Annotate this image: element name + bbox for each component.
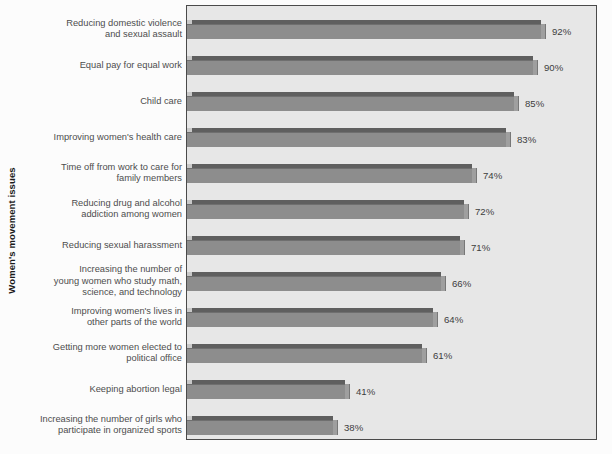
bar-front-face: [187, 420, 333, 435]
category-label-line: Reducing domestic violence: [6, 18, 182, 30]
category-label-line: Time off from work to care for: [6, 162, 182, 174]
category-label: Increasing the number ofyoung women who …: [6, 264, 182, 299]
bar-right-face: [514, 96, 519, 111]
category-label-line: Increasing the number of: [6, 264, 182, 276]
category-label: Keeping abortion legal: [6, 384, 182, 396]
bar-value-label: 72%: [475, 206, 494, 217]
bar-front-face: [187, 240, 460, 255]
category-label-line: Reducing sexual harassment: [6, 240, 182, 252]
category-label-line: Getting more women elected to: [6, 342, 182, 354]
category-label-line: Increasing the number of girls who: [6, 414, 182, 426]
bar-right-face: [460, 240, 465, 255]
category-label: Equal pay for equal work: [6, 60, 182, 72]
bar: [187, 164, 477, 183]
bar-front-face: [187, 384, 345, 399]
bar-front-face: [187, 204, 464, 219]
bar-right-face: [333, 420, 338, 435]
bar-chart-figure: Women's movement issues Reducing domesti…: [0, 0, 612, 454]
bar-front-face: [187, 312, 433, 327]
bar-right-face: [441, 276, 446, 291]
bar-right-face: [345, 384, 350, 399]
plot-inner: 92%90%85%83%74%72%71%66%64%61%41%38%: [187, 6, 596, 439]
bar-right-face: [464, 204, 469, 219]
bar-value-label: 90%: [544, 62, 563, 73]
category-label: Child care: [6, 96, 182, 108]
category-label-line: and sexual assault: [6, 29, 182, 41]
plot-area: 92%90%85%83%74%72%71%66%64%61%41%38%: [186, 5, 597, 440]
category-label: Improving women's lives inother parts of…: [6, 306, 182, 329]
category-label-line: Child care: [6, 96, 182, 108]
category-label-line: Improving women's lives in: [6, 306, 182, 318]
bar: [187, 380, 350, 399]
category-label: Improving women's health care: [6, 132, 182, 144]
bar-value-label: 83%: [517, 134, 536, 145]
category-label: Increasing the number of girls whopartic…: [6, 414, 182, 437]
bar-front-face: [187, 348, 422, 363]
bar: [187, 308, 438, 327]
bar-value-label: 61%: [433, 350, 452, 361]
category-label: Time off from work to care forfamily mem…: [6, 162, 182, 185]
bar-value-label: 38%: [344, 422, 363, 433]
bar: [187, 92, 519, 111]
category-label-line: Improving women's health care: [6, 132, 182, 144]
bar-right-face: [541, 24, 546, 39]
bar-front-face: [187, 132, 506, 147]
bar-value-label: 64%: [444, 314, 463, 325]
bar-front-face: [187, 24, 541, 39]
bar-front-face: [187, 60, 533, 75]
bar-value-label: 66%: [452, 278, 471, 289]
category-label-line: Keeping abortion legal: [6, 384, 182, 396]
category-label-line: addiction among women: [6, 209, 182, 221]
category-label: Reducing drug and alcoholaddiction among…: [6, 198, 182, 221]
bar-front-face: [187, 96, 514, 111]
bar-value-label: 71%: [471, 242, 490, 253]
bar: [187, 200, 469, 219]
category-label-line: other parts of the world: [6, 317, 182, 329]
category-label-line: young women who study math,: [6, 276, 182, 288]
bar: [187, 344, 427, 363]
bar: [187, 416, 338, 435]
bar: [187, 56, 538, 75]
category-label-line: Reducing drug and alcohol: [6, 198, 182, 210]
bar-value-label: 41%: [356, 386, 375, 397]
bar: [187, 20, 546, 39]
bar-right-face: [533, 60, 538, 75]
bar-value-label: 74%: [483, 170, 502, 181]
category-label-line: science, and technology: [6, 287, 182, 299]
bar-right-face: [472, 168, 477, 183]
bar-front-face: [187, 168, 472, 183]
category-label-column: Reducing domestic violenceand sexual ass…: [6, 5, 182, 440]
bar-right-face: [506, 132, 511, 147]
bar: [187, 128, 511, 147]
bar: [187, 236, 465, 255]
bar-value-label: 85%: [525, 98, 544, 109]
bar-right-face: [422, 348, 427, 363]
category-label-line: Equal pay for equal work: [6, 60, 182, 72]
category-label: Reducing sexual harassment: [6, 240, 182, 252]
category-label: Reducing domestic violenceand sexual ass…: [6, 18, 182, 41]
category-label-line: family members: [6, 173, 182, 185]
bar: [187, 272, 446, 291]
category-label: Getting more women elected topolitical o…: [6, 342, 182, 365]
bar-right-face: [433, 312, 438, 327]
bar-front-face: [187, 276, 441, 291]
category-label-line: political office: [6, 353, 182, 365]
bar-value-label: 92%: [552, 26, 571, 37]
category-label-line: participate in organized sports: [6, 425, 182, 437]
